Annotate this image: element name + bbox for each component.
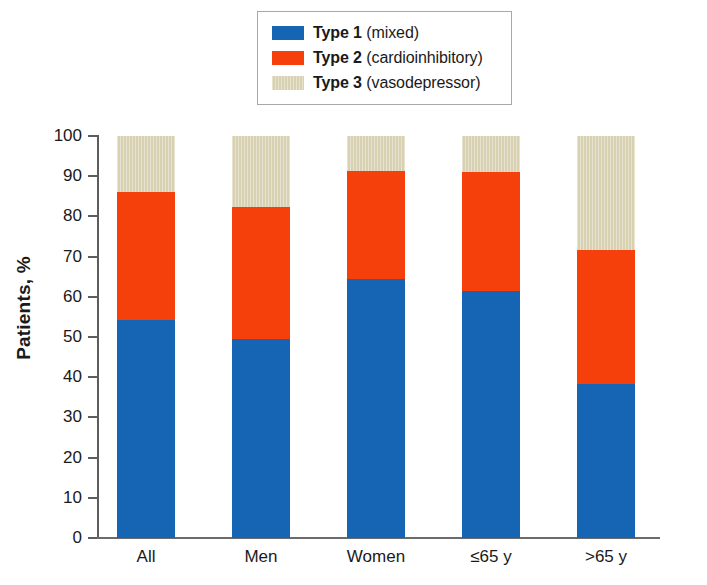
y-tick-mark: [88, 497, 97, 499]
y-tick-mark: [88, 175, 97, 177]
y-tick-mark: [88, 416, 97, 418]
y-tick-label: 0: [32, 529, 82, 546]
y-tick-mark: [88, 376, 97, 378]
x-tick-label: ≤65 y: [436, 548, 546, 565]
stacked-bar: [577, 136, 635, 538]
stacked-bar: [347, 136, 405, 538]
bar-segment-type-3: [347, 136, 405, 171]
y-tick-mark: [88, 215, 97, 217]
x-tick-label: Men: [206, 548, 316, 565]
bar-segment-type-3: [462, 136, 520, 172]
y-tick-label: 60: [32, 288, 82, 305]
stacked-bar-chart: Patients, % 0102030405060708090100 AllMe…: [0, 0, 707, 585]
x-tick-label: >65 y: [551, 548, 661, 565]
y-tick-label: 30: [32, 408, 82, 425]
bar-segment-type-1: [347, 279, 405, 538]
y-tick-label: 40: [32, 368, 82, 385]
bar-segment-type-3: [577, 136, 635, 250]
y-tick-label: 70: [32, 248, 82, 265]
bar-segment-type-1: [577, 384, 635, 538]
stacked-bar: [117, 136, 175, 538]
stacked-bar: [462, 136, 520, 538]
y-tick-label: 90: [32, 167, 82, 184]
bar-segment-type-2: [232, 207, 290, 340]
bar-segment-type-3: [117, 136, 175, 192]
y-tick-mark: [88, 537, 97, 539]
bar-segment-type-2: [347, 171, 405, 278]
y-tick-label: 20: [32, 449, 82, 466]
y-tick-mark: [88, 256, 97, 258]
y-tick-mark: [88, 336, 97, 338]
y-axis-line: [97, 135, 99, 539]
bar-segment-type-2: [462, 172, 520, 291]
bar-segment-type-2: [577, 250, 635, 384]
y-tick-mark: [88, 135, 97, 137]
x-tick-label: All: [91, 548, 201, 565]
stacked-bar: [232, 136, 290, 538]
y-tick-label: 80: [32, 207, 82, 224]
y-tick-mark: [88, 457, 97, 459]
x-tick-label: Women: [321, 548, 431, 565]
bar-segment-type-1: [117, 320, 175, 538]
bar-segment-type-1: [462, 291, 520, 538]
bar-segment-type-3: [232, 136, 290, 207]
y-tick-label: 100: [32, 127, 82, 144]
bar-segment-type-1: [232, 339, 290, 538]
y-tick-label: 50: [32, 328, 82, 345]
bar-segment-type-2: [117, 192, 175, 320]
y-tick-label: 10: [32, 489, 82, 506]
y-tick-mark: [88, 296, 97, 298]
